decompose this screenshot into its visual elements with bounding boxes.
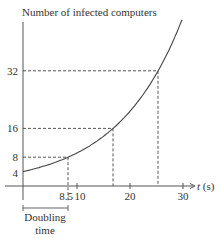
exponential-growth-chart: 4 8 16 32 8.5 10 20 30 t (s) Number of i…: [0, 0, 219, 239]
x-tick-label-20: 20: [125, 190, 137, 202]
growth-curve: [23, 20, 182, 172]
x-axis-title: t (s): [197, 180, 215, 193]
x-tick-label-30: 30: [178, 190, 190, 202]
y-tick-label-8: 8: [13, 151, 19, 163]
x-tick-label-8.5: 8.5: [59, 190, 73, 202]
y-tick-label-32: 32: [7, 65, 18, 77]
doubling-time-label-line2: time: [35, 224, 55, 236]
y-tick-label-4: 4: [13, 167, 19, 179]
doubling-time-label-line1: Doubling: [24, 211, 66, 223]
x-axis-unit: (s): [200, 180, 215, 193]
x-tick-label-10: 10: [75, 190, 87, 202]
y-tick-label-16: 16: [7, 122, 19, 134]
y-axis-title: Number of infected computers: [22, 6, 157, 18]
guide-lines: [23, 71, 158, 202]
